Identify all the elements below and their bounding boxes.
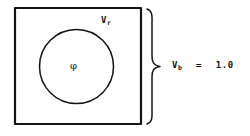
label-reinforcement-volume: Vr — [101, 16, 111, 27]
label-bulk-volume-equation: Vb = 1.0 — [172, 61, 234, 72]
figure-canvas: Vr φ Vb = 1.0 — [0, 0, 250, 136]
label-bulk-volume-value: 1.0 — [216, 60, 234, 70]
bulk-volume-square — [15, 8, 141, 124]
label-vr-subscript: r — [107, 19, 111, 27]
label-phi-symbol: φ — [70, 61, 78, 71]
right-curly-brace — [147, 9, 160, 124]
